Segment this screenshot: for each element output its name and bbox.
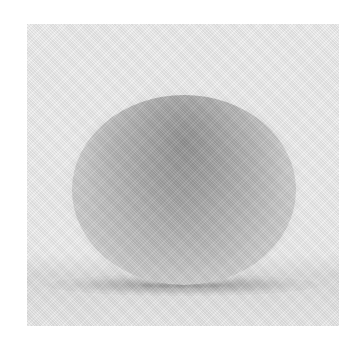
sphere xyxy=(72,95,296,285)
render-frame xyxy=(27,24,339,326)
